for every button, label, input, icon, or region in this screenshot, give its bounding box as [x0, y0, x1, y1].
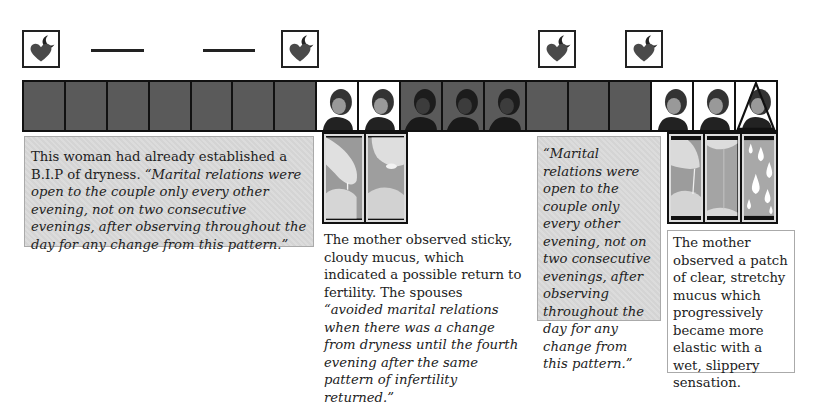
heart-moon-icon	[625, 30, 663, 68]
heart-moon-icon	[538, 30, 576, 68]
baby-icon	[401, 82, 441, 130]
note-stretchy-mucus: The mother observed a patch of clear, st…	[667, 230, 795, 373]
baby-icon	[443, 82, 483, 130]
note-sticky-mucus: The mother observed sticky, cloudy mucus…	[324, 231, 524, 371]
stretchy-mucus-strand-image	[705, 134, 739, 222]
note-infertile-pattern: This woman had already established a B.I…	[24, 136, 314, 247]
heart-moon-icon	[22, 30, 60, 68]
dash-marker	[91, 49, 144, 52]
day-cell-baby-light	[359, 82, 401, 130]
day-cell-dry	[150, 82, 192, 130]
day-cell-dry	[569, 82, 611, 130]
day-cell-baby-dark	[401, 82, 443, 130]
note-quote-text: “avoided marital relations when there wa…	[324, 302, 518, 405]
wet-droplets-image	[742, 134, 776, 222]
day-cell-dry	[527, 82, 569, 130]
baby-icon	[694, 82, 734, 130]
note-infertile-pattern-2: “Marital relations were open to the coup…	[537, 136, 661, 321]
day-cell-baby-light	[694, 82, 736, 130]
peak-triangle-icon	[736, 82, 776, 130]
photo-group-stretchy-mucus	[667, 132, 778, 224]
day-cell-dry	[233, 82, 275, 130]
photo-group-sticky-mucus	[322, 132, 408, 224]
day-cell-dry	[66, 82, 108, 130]
day-cell-dry	[192, 82, 234, 130]
baby-icon	[652, 82, 692, 130]
day-cell-baby-light	[652, 82, 694, 130]
baby-icon	[359, 82, 399, 130]
heart-moon-icon	[281, 30, 319, 68]
note-quote-text: “Marital relations were open to the coup…	[543, 146, 651, 371]
day-cell-baby-dark	[485, 82, 527, 130]
day-cell-peak	[736, 82, 776, 130]
day-cell-dry	[275, 82, 317, 130]
baby-icon	[485, 82, 525, 130]
day-cell-baby-light	[317, 82, 359, 130]
note-plain-text: The mother observed a patch of clear, st…	[673, 235, 788, 390]
baby-icon	[317, 82, 357, 130]
day-cell-dry	[24, 82, 66, 130]
stretchy-mucus-fingers-image	[669, 134, 703, 222]
sticky-mucus-fingers-image	[324, 134, 364, 222]
sticky-mucus-drop-image	[366, 134, 406, 222]
day-cell-dry	[108, 82, 150, 130]
day-cell-dry	[610, 82, 652, 130]
dash-marker	[203, 49, 255, 52]
note-plain-text: The mother observed sticky, cloudy mucus…	[324, 232, 521, 300]
cycle-chart-strip	[22, 80, 778, 132]
day-cell-baby-dark	[443, 82, 485, 130]
